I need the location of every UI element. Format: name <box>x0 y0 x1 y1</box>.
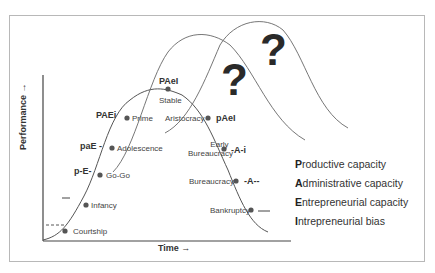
y-axis-label: Performance → <box>18 83 28 150</box>
legend-text: ntrepreneurial capacity <box>302 196 408 208</box>
paei-legend: Productive capacity Administrative capac… <box>295 155 408 231</box>
stage-go-go: Go-Go <box>106 171 130 180</box>
stage-stable: Stable <box>159 96 182 105</box>
legend-integrative: Intrepreneurial bias <box>295 212 408 231</box>
main-curve <box>43 89 268 240</box>
legend-text: ntrepreneurial bias <box>298 215 385 227</box>
dot-bureaucracy <box>233 178 238 183</box>
question-mark-2: ? <box>260 28 287 72</box>
legend-text: dministrative capacity <box>303 177 403 189</box>
code-early-bureaucracy: -A-i <box>231 145 246 155</box>
legend-initial: E <box>295 196 302 208</box>
legend-productive: Productive capacity <box>295 155 408 174</box>
stage-prime: Prime <box>132 114 153 123</box>
code-adolescence: paE - <box>80 141 102 151</box>
dot-go-go <box>97 172 102 177</box>
legend-initial: A <box>295 177 303 189</box>
legend-administrative: Administrative capacity <box>295 174 408 193</box>
stage-adolescence: Adolescence <box>117 144 163 153</box>
code-go-go: p-E- <box>74 166 92 176</box>
dot-prime <box>124 115 129 120</box>
legend-text: roductive capacity <box>302 158 386 170</box>
stage-bureaucracy: Bureaucracy <box>189 177 234 186</box>
legend-entrepreneurial: Entrepreneurial capacity <box>295 193 408 212</box>
stage-bankruptcy: Bankruptcy <box>210 206 250 215</box>
dot-infancy <box>83 202 88 207</box>
x-axis-label: Time → <box>158 243 190 253</box>
stage-courtship: Courtship <box>73 227 107 236</box>
stage-infancy: Infancy <box>91 201 117 210</box>
dot-stable <box>165 86 170 91</box>
dot-courtship <box>62 228 67 233</box>
code-prime: PAEi <box>96 110 116 120</box>
code-aristocracy: pAeI <box>216 113 236 123</box>
lifecycle-curves <box>0 0 435 273</box>
stage-early-bureaucracy: Early Bureaucracy <box>200 140 233 158</box>
dot-aristocracy <box>205 115 210 120</box>
stage-aristocracy: Aristocracy <box>165 114 205 123</box>
stage-early-bureaucracy-line2: Bureaucracy <box>188 149 233 158</box>
legend-initial: P <box>295 158 302 170</box>
dot-adolescence <box>109 145 114 150</box>
code-bureaucracy: -A-- <box>244 176 260 186</box>
question-mark-1: ? <box>221 58 248 102</box>
stage-early-bureaucracy-line1: Early <box>200 140 233 149</box>
code-stable: PAeI <box>159 76 178 86</box>
